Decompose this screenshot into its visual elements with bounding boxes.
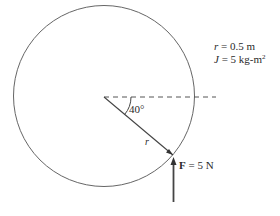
radius-label: r (145, 137, 149, 147)
disk-circle (14, 6, 195, 187)
force-arrowhead-icon (171, 157, 177, 165)
force-label: F = 5 N (179, 160, 214, 171)
angle-label: 40° (129, 104, 144, 115)
pulley-diagram: r = 0.5 m J = 5 kg-m2 40° r F = 5 N (0, 0, 280, 216)
inertia-param-label: J = 5 kg-m2 (214, 54, 266, 65)
radius-param-label: r = 0.5 m (214, 41, 255, 52)
